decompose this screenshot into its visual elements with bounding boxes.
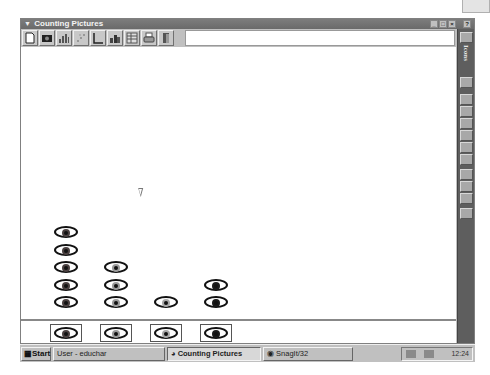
toolbar [21,29,456,47]
task-counting-pictures[interactable]: ◕ Counting Pictures [167,347,261,361]
app-window: ▼ Counting Pictures _ □ × ? [20,18,475,344]
iris [212,282,220,290]
start-button[interactable]: ▦Start [21,347,51,361]
bar-chart-button[interactable] [56,30,72,46]
pupil [114,332,118,336]
cross-button[interactable] [460,106,473,117]
eye-icon[interactable] [54,244,78,256]
taskbar: ▦Start User - educhar ◕ Counting Picture… [20,344,475,362]
eye-icon[interactable] [154,296,178,308]
axis-button[interactable] [90,30,106,46]
table-button[interactable] [124,30,140,46]
print-icon [143,32,155,44]
pupil [114,284,118,288]
exit-button[interactable] [158,30,174,46]
category-key-green[interactable] [150,324,182,342]
iris [62,264,70,272]
axis-icon [92,32,104,44]
frame-button[interactable] [460,118,473,129]
snagit-icon: ◉ [267,349,276,358]
iris [62,299,70,307]
info-button[interactable] [460,208,473,219]
scatter-button[interactable] [73,30,89,46]
iris [112,264,120,272]
iris [62,229,70,237]
window-title: Counting Pictures [34,19,103,28]
desktop-corner-panel [462,0,490,13]
pictograph-button[interactable] [107,30,123,46]
category-key-blue[interactable] [100,324,132,342]
pupil [214,332,218,336]
app-icon: ◕ [171,349,178,358]
help-button[interactable]: ? [463,20,471,28]
close-button[interactable]: × [448,20,456,28]
iris [62,247,70,255]
eye-icon[interactable] [104,327,128,339]
iris [162,299,170,307]
eye-icon[interactable] [104,296,128,308]
line-button[interactable] [460,181,473,192]
stamp-button[interactable] [460,154,473,165]
system-tray: 12:24 [401,347,473,361]
paint-button[interactable] [460,142,473,153]
pupil [64,266,68,270]
grid-button[interactable] [460,169,473,180]
eye-icon[interactable] [104,279,128,291]
pupil [64,301,68,305]
eye-icon[interactable] [54,296,78,308]
app-icon: ▼ [24,19,30,25]
camera-button[interactable] [39,30,55,46]
clock: 12:24 [451,350,469,357]
category-key-brown[interactable] [50,324,82,342]
palette-button[interactable] [460,32,473,43]
eye-icon[interactable] [204,279,228,291]
pupil [114,301,118,305]
exit-door-icon [160,32,172,44]
iris [112,330,120,338]
task-user[interactable]: User - educhar [53,347,165,361]
pupil [214,301,218,305]
minimize-button[interactable]: _ [430,20,438,28]
select-button[interactable] [460,94,473,105]
pictograph-icon [109,32,121,44]
eye-icon[interactable] [54,261,78,273]
pupil [64,231,68,235]
title-bar: ▼ Counting Pictures _ □ × ? [21,19,474,29]
pupil [114,266,118,270]
pupil [64,332,68,336]
eye-icon[interactable] [204,327,228,339]
maximize-button[interactable]: □ [439,20,447,28]
pupil [64,249,68,253]
eye-icon[interactable] [54,226,78,238]
pupil [164,301,168,305]
eye-icon[interactable] [104,261,128,273]
sidebar-button-1[interactable] [460,77,473,88]
icons-sidebar: Icons [457,29,474,343]
iris [212,299,220,307]
iris [112,299,120,307]
iris [212,330,220,338]
window-controls: _ □ × [430,20,456,28]
scatter-icon [75,32,87,44]
eye-icon[interactable] [54,327,78,339]
volume-icon [424,350,434,358]
network-icon [406,350,416,358]
category-key-black[interactable] [200,324,232,342]
new-icon [25,32,35,44]
eye-icon[interactable] [54,279,78,291]
magnify-button[interactable] [460,130,473,141]
task-snagit[interactable]: ◉ SnagIt/32 [263,347,353,361]
eye-icon[interactable] [204,296,228,308]
erase-button[interactable] [460,193,473,204]
print-button[interactable] [141,30,157,46]
windows-logo-icon: ▦ [24,349,32,358]
pupil [164,332,168,336]
eye-icon[interactable] [154,327,178,339]
graph-canvas[interactable] [21,47,456,319]
new-button[interactable] [22,30,38,46]
camera-icon [41,33,53,43]
iris [162,330,170,338]
toolbar-text-field[interactable] [185,30,455,46]
iris [62,330,70,338]
pupil [214,284,218,288]
